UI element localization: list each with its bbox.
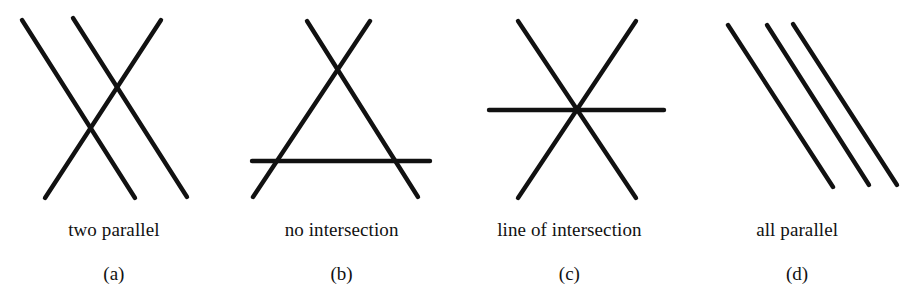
panel-a-caption: two parallel	[0, 218, 228, 242]
panel-label-c: (c)	[456, 262, 684, 286]
panel-label-a: (a)	[0, 262, 228, 286]
line-configurations-diagram	[0, 0, 911, 303]
panel-b-caption: no intersection	[228, 218, 456, 242]
panel-label-row: (a) (b) (c) (d)	[0, 262, 911, 286]
panel-caption-row: two parallel no intersection line of int…	[0, 218, 911, 242]
figure-container: two parallel no intersection line of int…	[0, 0, 911, 303]
panel-label-d: (d)	[683, 262, 911, 286]
panel-label-b: (b)	[228, 262, 456, 286]
panel-c-caption: line of intersection	[456, 218, 684, 242]
figure-background	[0, 0, 911, 303]
panel-d-caption: all parallel	[683, 218, 911, 242]
